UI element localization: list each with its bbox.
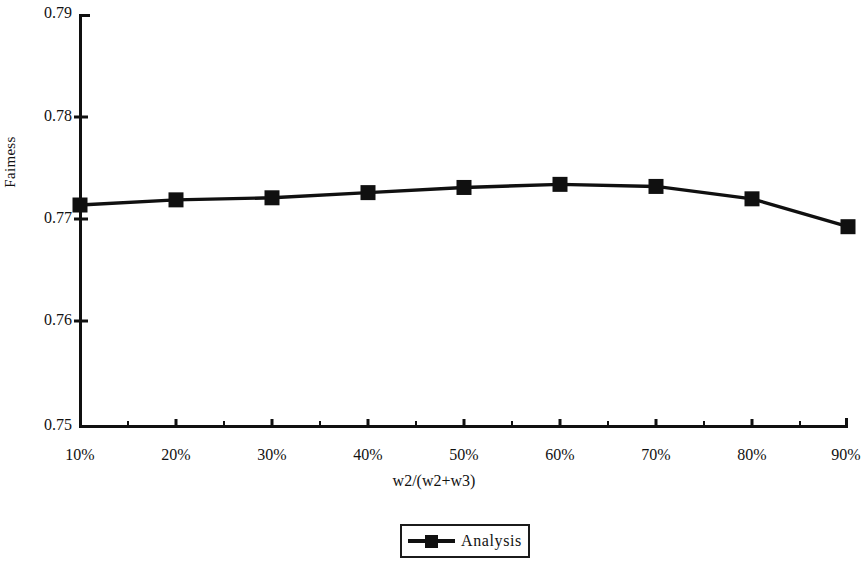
legend-line-left-icon bbox=[408, 539, 425, 543]
data-point-marker bbox=[841, 219, 856, 234]
legend-entry-analysis: Analysis bbox=[408, 532, 522, 550]
x-tick-label-50: 50% bbox=[429, 446, 499, 464]
x-axis-title: w2/(w2+w3) bbox=[0, 472, 868, 490]
data-point-marker bbox=[265, 190, 280, 205]
data-point-marker bbox=[553, 177, 568, 192]
data-point-marker bbox=[745, 191, 760, 206]
x-tick-label-30: 30% bbox=[237, 446, 307, 464]
x-tick-label-90: 90% bbox=[811, 446, 868, 464]
data-point-marker bbox=[169, 192, 184, 207]
x-tick-label-80: 80% bbox=[717, 446, 787, 464]
chart-figure: Faimess 0.79 0.78 0.77 0.76 0.75 10% 20%… bbox=[0, 0, 868, 573]
x-tick-label-10: 10% bbox=[45, 446, 115, 464]
data-point-marker bbox=[649, 179, 664, 194]
legend-label: Analysis bbox=[461, 532, 522, 550]
x-tick-label-70: 70% bbox=[621, 446, 691, 464]
chart-legend: Analysis bbox=[400, 524, 530, 558]
legend-square-marker-icon bbox=[425, 535, 438, 548]
y-tick-label-0-78: 0.78 bbox=[26, 107, 72, 125]
y-tick-label-0-79: 0.79 bbox=[26, 4, 72, 22]
data-point-marker bbox=[73, 198, 88, 213]
data-point-marker bbox=[361, 185, 376, 200]
y-axis-title: Faimess bbox=[2, 117, 24, 207]
y-tick-label-0-77: 0.77 bbox=[26, 209, 72, 227]
x-tick-label-40: 40% bbox=[333, 446, 403, 464]
x-tick-label-20: 20% bbox=[141, 446, 211, 464]
series-markers-analysis bbox=[73, 177, 856, 234]
legend-line-right-icon bbox=[438, 539, 455, 543]
y-tick-label-0-76: 0.76 bbox=[26, 311, 72, 329]
x-tick-label-60: 60% bbox=[525, 446, 595, 464]
data-point-marker bbox=[457, 180, 472, 195]
y-tick-label-0-75: 0.75 bbox=[26, 416, 72, 434]
